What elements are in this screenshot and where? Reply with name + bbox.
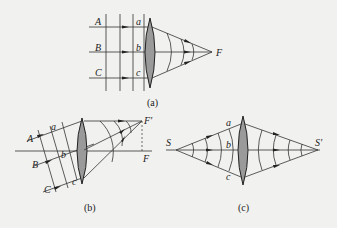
label-c: c (72, 176, 77, 187)
label-F: F (142, 153, 150, 164)
label-c: c (136, 67, 141, 78)
label-S-prime: S' (315, 137, 323, 148)
label-A: A (26, 133, 34, 144)
label-a: a (226, 117, 231, 128)
figure-svg: A B C a b c F (a) (0, 0, 337, 228)
label-C: C (95, 67, 102, 78)
label-B: B (32, 159, 38, 170)
caption-b: (b) (84, 202, 96, 214)
label-b: b (226, 139, 231, 150)
label-C: C (44, 184, 51, 195)
label-S: S (166, 137, 171, 148)
label-a: a (51, 121, 56, 132)
lens-b (77, 118, 87, 184)
label-b: b (61, 149, 66, 160)
label-F: F (215, 47, 223, 58)
label-A: A (94, 16, 102, 27)
panel-b: A B C a b c F' F (b) (15, 115, 153, 214)
label-B: B (95, 42, 101, 53)
lens-c (238, 116, 248, 185)
label-c: c (226, 171, 231, 182)
label-F-prime: F' (143, 115, 153, 126)
label-b: b (136, 42, 141, 53)
panel-a: A B C a b c F (a) (89, 14, 223, 109)
lens-wavefront-figure: A B C a b c F (a) (0, 0, 337, 228)
label-a: a (136, 16, 141, 27)
panel-c: S S' a b c (c) (166, 116, 323, 214)
caption-c: (c) (238, 202, 249, 214)
caption-a: (a) (147, 97, 158, 109)
